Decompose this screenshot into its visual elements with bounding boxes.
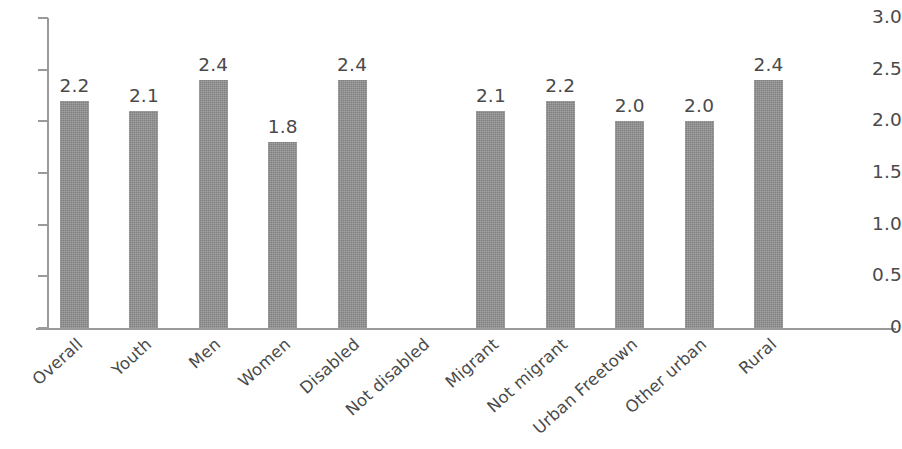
bar-value-label: 2.0 bbox=[600, 97, 660, 116]
bar bbox=[546, 101, 575, 328]
y-axis-tick bbox=[38, 327, 48, 329]
bar bbox=[199, 80, 228, 328]
y-axis-tick bbox=[38, 275, 48, 277]
bar-value-label: 2.1 bbox=[114, 87, 174, 106]
bar-chart: 00.51.01.52.02.53.0 2.22.12.41.82.42.12.… bbox=[0, 0, 902, 449]
x-axis-label-text: Youth bbox=[109, 336, 155, 379]
y-axis-tick bbox=[38, 172, 48, 174]
x-axis-label-text: Migrant bbox=[443, 336, 502, 391]
bar-value-label: 2.4 bbox=[183, 56, 243, 75]
y-axis-tick bbox=[38, 17, 48, 19]
x-axis-label-text: Men bbox=[187, 336, 224, 372]
bar-value-label: 2.0 bbox=[669, 97, 729, 116]
x-axis-label-text: Rural bbox=[736, 336, 779, 377]
bar bbox=[60, 101, 89, 328]
y-axis-tick-label: 2.5 bbox=[866, 60, 902, 79]
x-axis-label-text: Women bbox=[236, 336, 294, 391]
y-axis-tick bbox=[38, 224, 48, 226]
bar bbox=[338, 80, 367, 328]
bar bbox=[685, 121, 714, 328]
y-axis-tick-label: 1.0 bbox=[866, 215, 902, 234]
bar bbox=[754, 80, 783, 328]
bar bbox=[129, 111, 158, 328]
y-axis-tick bbox=[38, 69, 48, 71]
bar-value-label: 2.2 bbox=[530, 77, 590, 96]
bar bbox=[615, 121, 644, 328]
x-axis-label-text: Overall bbox=[30, 336, 86, 389]
y-axis-tick-label: 2.0 bbox=[866, 111, 902, 130]
bar-value-label: 1.8 bbox=[253, 118, 313, 137]
y-axis-tick-label: 3.0 bbox=[866, 8, 902, 27]
bar-value-label: 2.2 bbox=[45, 77, 105, 96]
bar-value-label: 2.1 bbox=[461, 87, 521, 106]
y-axis-tick bbox=[38, 120, 48, 122]
bar-value-label: 2.4 bbox=[739, 56, 799, 75]
y-axis-tick-label: 0.5 bbox=[866, 266, 902, 285]
y-axis-tick-label: 0 bbox=[866, 318, 902, 337]
y-axis-tick-label: 1.5 bbox=[866, 163, 902, 182]
bar bbox=[268, 142, 297, 328]
x-axis-baseline bbox=[36, 328, 896, 330]
bar bbox=[476, 111, 505, 328]
x-axis-label-text: Disabled bbox=[298, 336, 363, 397]
bar-value-label: 2.4 bbox=[322, 56, 382, 75]
